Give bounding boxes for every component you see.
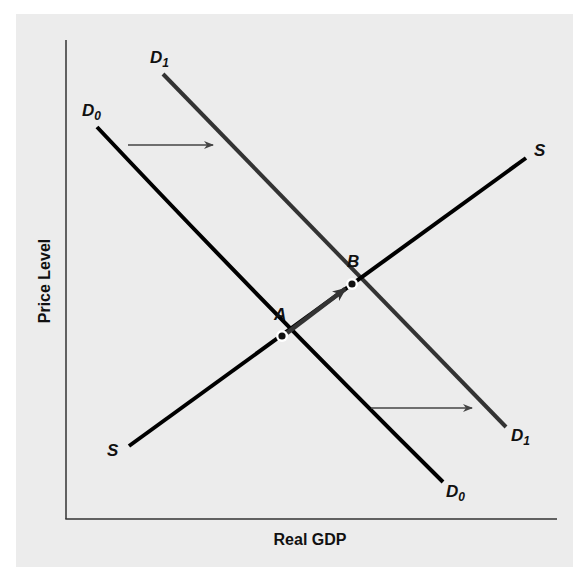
y-axis-title: Price Level <box>36 239 53 324</box>
label-point-b: B <box>347 252 359 271</box>
label-d0-bottom: D0 <box>446 482 465 504</box>
label-s-end: S <box>534 141 546 160</box>
label-point-a: A <box>273 305 286 324</box>
demand-curve-d0 <box>97 127 443 482</box>
label-s-start: S <box>107 441 119 460</box>
x-axis-title: Real GDP <box>274 531 347 548</box>
axes <box>65 40 557 519</box>
label-d1-top: D1 <box>150 48 169 70</box>
supply-demand-diagram: D1 D0 D1 D0 S S A B Real GDP Price Level <box>0 0 586 579</box>
label-d0-top: D0 <box>82 101 101 123</box>
label-d1-bottom: D1 <box>511 426 530 448</box>
point-b <box>346 278 358 290</box>
movement-arrow-a-to-b <box>287 289 345 333</box>
point-a <box>276 330 288 342</box>
